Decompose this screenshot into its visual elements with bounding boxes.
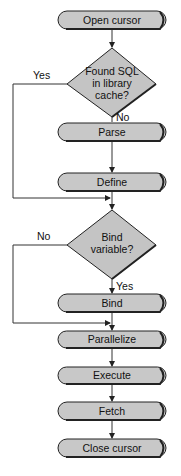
decision-label-line: in library [92,77,132,89]
decision-label-line: Found SQL [85,65,139,77]
step-label: Parallelize [88,333,137,345]
decision-label-line: Bind [101,231,122,243]
decision-found-sql: Found SQL in library cache? [67,48,156,117]
step-parse: Parse [58,123,166,141]
step-label: Open cursor [83,14,141,26]
flowchart: Open cursor Found SQL in library cache? … [0,0,181,476]
edge-label-yes: Yes [33,69,50,81]
step-fetch: Fetch [58,402,166,420]
step-define: Define [58,173,166,191]
decision-label-line: cache? [95,89,129,101]
step-execute: Execute [58,367,166,384]
decision-bind-variable: Bind variable? [67,210,156,279]
edge-label-no-visible: No [116,111,130,123]
step-label: Execute [93,369,131,381]
step-label: Fetch [99,405,125,417]
step-open-cursor: Open cursor [58,11,166,29]
decision-label-line: variable? [91,243,134,255]
step-label: Define [97,176,128,188]
step-bind: Bind [58,294,166,312]
edge-label-no: No [37,230,51,242]
step-label: Parse [98,126,126,138]
step-parallelize: Parallelize [58,331,166,348]
step-label: Bind [101,297,122,309]
step-close-cursor: Close cursor [58,439,166,457]
edge-label-yes: Yes [116,280,133,292]
step-label: Close cursor [83,442,142,454]
